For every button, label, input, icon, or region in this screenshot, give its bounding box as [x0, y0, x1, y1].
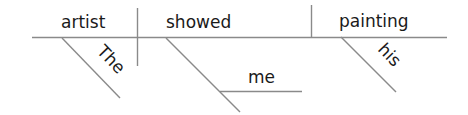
indirect-object-word: me: [248, 67, 275, 87]
verb-word: showed: [166, 12, 231, 32]
subject-modifier-word: The: [92, 40, 129, 77]
direct-object-word: painting: [339, 11, 409, 31]
subject-word: artist: [61, 12, 106, 32]
object-modifier-word: his: [374, 39, 405, 71]
indirect-object-slant: [166, 38, 240, 112]
sentence-diagram: artist showed painting me The his: [0, 0, 468, 115]
